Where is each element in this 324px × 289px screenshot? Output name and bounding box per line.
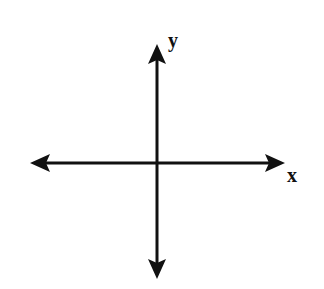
coordinate-axes-diagram: y x <box>0 0 324 289</box>
x-axis-label: x <box>287 165 297 185</box>
y-axis-label: y <box>168 30 178 50</box>
axes-graphic <box>0 0 324 289</box>
